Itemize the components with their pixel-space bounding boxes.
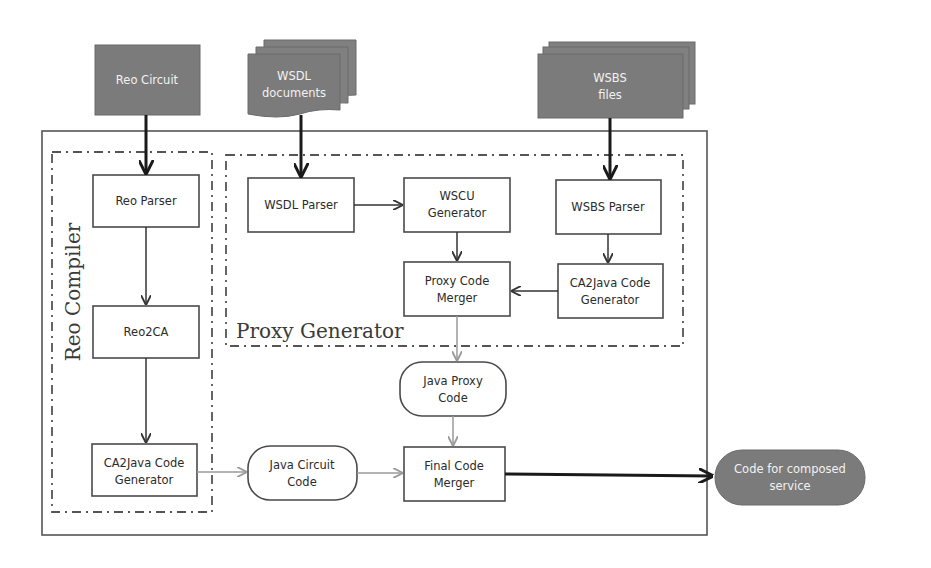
ca2java-right-line2: Generator — [581, 293, 640, 307]
wscu-generator-line1: WSCU — [439, 189, 474, 203]
reo2ca-label: Reo2CA — [124, 325, 169, 339]
ca2java-left-line2: Generator — [115, 473, 174, 487]
node-proxy-code-merger: Proxy Code Merger — [404, 262, 510, 316]
input-reo-circuit: Reo Circuit — [95, 45, 200, 115]
final-code-merger-line1: Final Code — [424, 459, 484, 473]
reo-circuit-label: Reo Circuit — [116, 73, 179, 87]
node-java-proxy-code: Java Proxy Code — [400, 362, 506, 416]
ca2java-left-line1: CA2Java Code — [104, 456, 185, 470]
java-proxy-code-line2: Code — [438, 391, 467, 405]
wsdl-documents-line1: WSDL — [277, 69, 312, 83]
ca2java-right-line1: CA2Java Code — [570, 276, 651, 290]
node-ca2java-code-generator-right: CA2Java Code Generator — [558, 264, 663, 318]
input-wsdl-documents: WSDL documents — [248, 40, 356, 117]
node-wsbs-parser: WSBS Parser — [556, 180, 661, 234]
java-circuit-code-line1: Java Circuit — [269, 458, 335, 472]
java-proxy-code-line1: Java Proxy — [422, 374, 483, 388]
final-code-merger-line2: Merger — [434, 476, 475, 490]
architecture-diagram: Reo Compiler Proxy Generator Reo Circuit… — [0, 0, 931, 568]
reo-parser-label: Reo Parser — [115, 194, 177, 208]
node-java-circuit-code: Java Circuit Code — [248, 446, 357, 500]
node-wsdl-parser: WSDL Parser — [248, 178, 354, 232]
proxy-generator-label: Proxy Generator — [236, 319, 404, 343]
node-reo-parser: Reo Parser — [93, 175, 199, 227]
node-wscu-generator: WSCU Generator — [404, 178, 510, 232]
output-line1: Code for composed — [734, 462, 846, 476]
input-wsbs-files: WSBS files — [538, 42, 695, 118]
wsdl-parser-label: WSDL Parser — [264, 198, 338, 212]
node-reo2ca: Reo2CA — [93, 306, 199, 358]
wsbs-files-line1: WSBS — [593, 71, 627, 85]
reo-compiler-label: Reo Compiler — [61, 222, 85, 361]
proxy-code-merger-line1: Proxy Code — [425, 274, 490, 288]
wsdl-documents-line2: documents — [262, 86, 326, 100]
proxy-code-merger-line2: Merger — [437, 291, 478, 305]
java-circuit-code-line2: Code — [287, 475, 316, 489]
node-final-code-merger: Final Code Merger — [404, 447, 505, 501]
output-code-for-composed-service: Code for composed service — [715, 450, 865, 505]
edge-final-code-merger-to-output — [505, 474, 712, 476]
wsbs-files-line2: files — [598, 88, 622, 102]
node-ca2java-code-generator-left: CA2Java Code Generator — [92, 444, 197, 496]
output-line2: service — [769, 479, 810, 493]
wsbs-parser-label: WSBS Parser — [571, 200, 645, 214]
wscu-generator-line2: Generator — [428, 206, 487, 220]
